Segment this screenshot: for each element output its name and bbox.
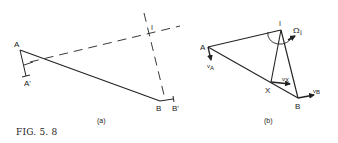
rigid-body-instant-center-diagram: A A' B B' I (a) A I B X vA vX vB ΩI (b)	[0, 0, 338, 143]
displacement-b-line	[160, 99, 173, 101]
velocity-a-label: vA	[207, 63, 214, 71]
panel-b: A I B X vA vX vB ΩI (b)	[200, 20, 320, 125]
velocity-x-label: vX	[282, 76, 289, 83]
velocity-b-label: vB	[313, 88, 320, 95]
b-prime-tick	[173, 96, 174, 102]
instant-center-i-label: I	[151, 24, 153, 31]
bar-ab-line	[20, 50, 160, 101]
point-b-label-b: B	[295, 102, 300, 111]
point-a-label: A	[14, 40, 20, 49]
perpendicular-dashed-line-a	[30, 26, 180, 62]
velocity-b-arrow-icon	[298, 95, 314, 98]
bar-ab-line-b	[208, 47, 298, 98]
point-a-label-b: A	[200, 43, 206, 52]
line-i-x	[271, 30, 281, 82]
point-b-label: B	[156, 104, 161, 113]
figure-caption: FIG. 5. 8	[16, 127, 57, 137]
perp-mark-a	[24, 62, 33, 65]
line-a-i	[208, 30, 281, 47]
perpendicular-dashed-line-b	[144, 13, 165, 99]
panel-a-caption: (a)	[97, 117, 106, 125]
panel-a: A A' B B' I (a)	[14, 13, 180, 125]
panel-b-caption: (b)	[264, 117, 273, 125]
point-b-prime-label: B'	[172, 104, 179, 113]
displacement-a-line	[20, 50, 26, 76]
angular-velocity-label: ΩI	[293, 26, 303, 36]
point-x-label-b: X	[265, 86, 271, 95]
point-a-prime-label: A'	[24, 79, 31, 88]
point-i-label-b: I	[279, 20, 281, 27]
